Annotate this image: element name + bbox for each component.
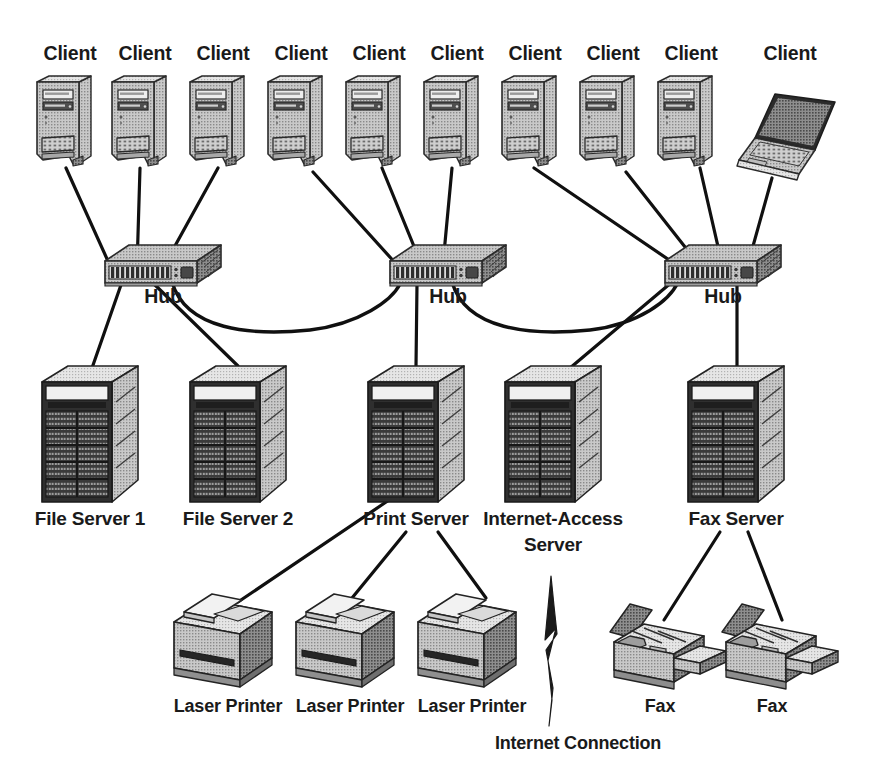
client-4-label: Client bbox=[275, 42, 329, 64]
laser-printer-1-label: Laser Printer bbox=[174, 696, 283, 716]
client-7-label: Client bbox=[509, 42, 563, 64]
laser-printer-3-label: Laser Printer bbox=[418, 696, 527, 716]
client-3-label: Client bbox=[197, 42, 251, 64]
client-1-label: Client bbox=[44, 42, 98, 64]
hub-2-label: Hub bbox=[429, 285, 467, 307]
text-labels-layer: Client Client Client Client Client Clien… bbox=[0, 0, 876, 765]
network-diagram-canvas: Client Client Client Client Client Clien… bbox=[0, 0, 876, 765]
fax-1-label: Fax bbox=[645, 696, 676, 716]
internet-server-label-line1: Internet-Access bbox=[483, 508, 623, 529]
file-server-1-label: File Server 1 bbox=[35, 508, 146, 529]
file-server-2-label: File Server 2 bbox=[183, 508, 293, 529]
client-10-label: Client bbox=[764, 42, 818, 64]
fax-server-label: Fax Server bbox=[688, 508, 784, 529]
laser-printer-2-label: Laser Printer bbox=[296, 696, 405, 716]
fax-2-label: Fax bbox=[757, 696, 788, 716]
client-2-label: Client bbox=[119, 42, 173, 64]
print-server-label: Print Server bbox=[363, 508, 469, 529]
client-8-label: Client bbox=[587, 42, 641, 64]
hub-1-label: Hub bbox=[144, 285, 182, 307]
client-9-label: Client bbox=[665, 42, 719, 64]
internet-connection-label: Internet Connection bbox=[495, 733, 661, 753]
client-6-label: Client bbox=[431, 42, 485, 64]
hub-3-label: Hub bbox=[704, 285, 742, 307]
client-5-label: Client bbox=[353, 42, 407, 64]
internet-server-label-line2: Server bbox=[524, 534, 583, 555]
